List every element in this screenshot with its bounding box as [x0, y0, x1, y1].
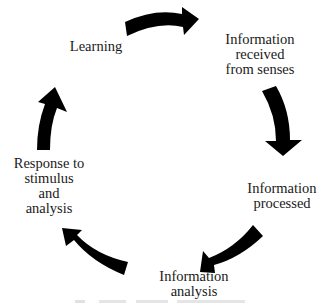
node-response-line-2: stimulus	[6, 171, 92, 186]
arrow-learning-to-received	[125, 7, 199, 36]
node-response-line-3: and	[6, 186, 92, 201]
node-received-line-3: from senses	[202, 62, 318, 77]
node-received-line-1: Information	[202, 32, 318, 47]
arrow-processed-to-analysis	[200, 225, 263, 273]
node-information-analysis: Information analysis	[146, 269, 242, 299]
faint-caption	[75, 300, 245, 303]
node-analysis-line-1: Information	[146, 269, 242, 284]
node-response-line-1: Response to	[6, 156, 92, 171]
node-response-line-4: analysis	[6, 201, 92, 216]
node-processed-line-1: Information	[236, 181, 324, 196]
node-information-received: Information received from senses	[202, 32, 318, 77]
node-analysis-line-2: analysis	[146, 284, 242, 299]
node-processed-line-2: processed	[236, 196, 324, 211]
arrow-received-to-processed	[262, 86, 302, 156]
arrow-response-to-learning	[37, 87, 67, 150]
node-learning: Learning	[62, 39, 130, 54]
node-received-line-2: received	[202, 47, 318, 62]
node-learning-label: Learning	[70, 38, 122, 54]
arrow-analysis-to-response	[62, 228, 128, 275]
node-information-processed: Information processed	[236, 181, 324, 211]
node-response-to-stimulus: Response to stimulus and analysis	[6, 156, 92, 216]
